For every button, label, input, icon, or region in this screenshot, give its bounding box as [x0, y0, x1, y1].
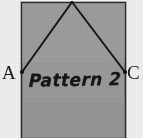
pattern-caption: Pattern 2 [28, 70, 121, 90]
vertex-label-c: C [127, 63, 140, 82]
rectangle-shade-top [22, 3, 125, 63]
vertex-label-a: A [2, 63, 16, 82]
vertex-dot-a [20, 70, 24, 74]
geometry-figure: A C Pattern 2 [0, 0, 143, 138]
rectangle-shade-bottom [22, 98, 125, 138]
vertex-dot-apex [70, 1, 73, 4]
